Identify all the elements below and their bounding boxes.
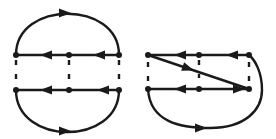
node (13, 52, 19, 58)
right-graph (145, 51, 262, 133)
node (145, 86, 151, 92)
arrow-left-icon (97, 86, 109, 95)
arrow-right-icon (59, 127, 71, 136)
arrow-left-icon (174, 85, 186, 94)
arrow-left-icon (174, 51, 186, 60)
arrow-right-icon (195, 124, 207, 133)
arrow-diagonal-icon (181, 62, 194, 71)
arrow-right-icon (59, 9, 71, 18)
node (145, 52, 151, 58)
edge-arc-outer (148, 55, 262, 128)
arrow-left-icon (40, 86, 52, 95)
arrow-left-icon (226, 51, 238, 60)
edge-arc-bottom (16, 90, 119, 132)
node (116, 87, 122, 93)
arrow-left-icon (40, 51, 52, 60)
edge-arc-top (16, 14, 119, 55)
node (66, 87, 72, 93)
node (66, 52, 72, 58)
node (196, 86, 202, 92)
node (116, 52, 122, 58)
left-graph (13, 9, 122, 136)
node (196, 52, 202, 58)
diagram-canvas (0, 0, 276, 139)
arrow-left-icon (93, 51, 105, 60)
node (13, 87, 19, 93)
node (246, 86, 252, 92)
node (246, 52, 252, 58)
